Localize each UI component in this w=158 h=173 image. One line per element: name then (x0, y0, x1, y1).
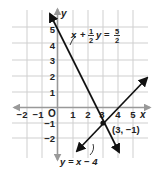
intersection-label: (3, −1) (112, 124, 140, 135)
svg-text:2: 2 (89, 36, 93, 45)
svg-text:y: y (95, 29, 102, 40)
svg-text:x: x (70, 29, 77, 40)
svg-text:−1: −1 (44, 118, 56, 129)
svg-text:5: 5 (130, 109, 136, 120)
svg-text:1: 1 (50, 87, 56, 98)
svg-text:5: 5 (115, 27, 119, 36)
x-tick-labels: −2 −1 1 2 3 4 5 (17, 109, 137, 120)
svg-text:−1: −1 (33, 109, 45, 120)
svg-text:−2: −2 (44, 133, 55, 144)
svg-text:2: 2 (50, 71, 55, 82)
coordinate-plane: y x O −2 −1 1 2 3 4 5 5 4 3 2 1 −1 −2 (3… (0, 0, 158, 173)
eq2-label: y = x − 4 (59, 156, 98, 167)
svg-text:+: + (80, 29, 86, 40)
x-axis-label: x (139, 109, 146, 120)
svg-text:−2: −2 (17, 109, 28, 120)
y-tick-labels: 5 4 3 2 1 −1 −2 (44, 24, 56, 144)
eq2-leader (90, 144, 94, 155)
intersection-point (100, 120, 105, 125)
svg-text:2: 2 (85, 109, 90, 120)
svg-text:5: 5 (50, 24, 56, 35)
svg-text:2: 2 (115, 36, 119, 45)
svg-text:3: 3 (50, 55, 55, 66)
svg-text:1: 1 (89, 27, 93, 36)
svg-text:=: = (104, 29, 110, 40)
svg-text:1: 1 (70, 109, 76, 120)
eq1-label: x + 1 2 y = 5 2 (70, 27, 120, 45)
svg-text:4: 4 (50, 40, 56, 51)
y-axis-label: y (60, 8, 67, 19)
